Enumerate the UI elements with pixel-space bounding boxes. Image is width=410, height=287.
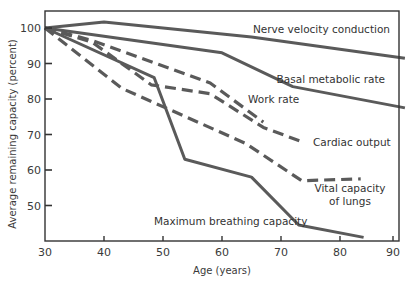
y-tick-label: 80 [27, 93, 41, 106]
y-axis-title: Average remaining capacity (percent) [7, 39, 18, 229]
x-tick-label: 70 [274, 246, 288, 259]
y-tick-label: 100 [20, 22, 41, 35]
y-tick-label: 60 [27, 164, 41, 177]
x-tick-label: 90 [386, 246, 400, 259]
vital-capacity-of-lungs-label: Vital capacityof lungs [314, 182, 385, 207]
basal-metabolic-rate-label: Basal metabolic rate [277, 73, 385, 85]
nerve-velocity-conduction-label: Nerve velocity conduction [253, 23, 390, 35]
basal-metabolic-rate-line [45, 28, 405, 108]
x-tick-label: 50 [156, 246, 170, 259]
y-tick-label: 90 [27, 58, 41, 71]
x-tick-label: 30 [38, 246, 52, 259]
maximum-breathing-capacity-label: Maximum breathing capacity [154, 215, 307, 227]
x-tick-label: 40 [97, 246, 111, 259]
x-tick-label: 80 [333, 246, 347, 259]
cardiac-output-label: Cardiac output [313, 136, 391, 148]
work-rate-label: Work rate [248, 93, 299, 105]
x-axis-title: Age (years) [193, 265, 251, 276]
x-tick-label: 60 [215, 246, 229, 259]
maximum-breathing-capacity-line [45, 28, 364, 237]
aging-capacity-chart: 304050607080905060708090100 Nerve veloci… [0, 0, 410, 287]
y-tick-label: 70 [27, 129, 41, 142]
y-tick-label: 50 [27, 200, 41, 213]
